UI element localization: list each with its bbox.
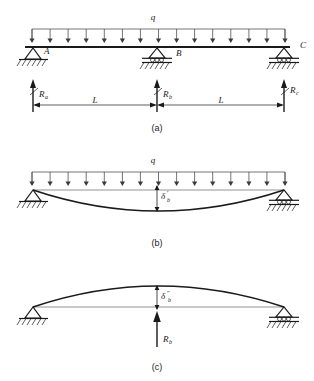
panel-c-force-Rb: R b	[153, 311, 172, 347]
load-arrow	[120, 172, 125, 186]
panel-a-dimension-right: L	[157, 95, 284, 108]
panel-c: δ ″ b R b	[17, 285, 299, 372]
panel-c-deflection-subscript: b	[168, 297, 171, 303]
panel-c-deflection-dimension: δ ″ b	[155, 285, 171, 310]
panel-b: q δ ′	[17, 155, 299, 248]
load-arrow	[264, 172, 269, 186]
panel-a-reaction-label-Ra: R	[38, 89, 45, 99]
beam-superposition-figure: q	[0, 0, 314, 381]
panel-a-node-label-B: B	[176, 48, 182, 58]
panel-a-reaction-sub-c: c	[296, 90, 299, 96]
figure-canvas: q	[0, 0, 314, 381]
panel-a-span-label-left: L	[91, 95, 97, 105]
load-arrow	[102, 172, 107, 186]
load-arrow	[120, 29, 125, 43]
load-arrow	[29, 172, 34, 186]
panel-a-caption: (a)	[152, 123, 163, 133]
panel-a-load-label: q	[151, 12, 156, 22]
load-arrow	[138, 172, 143, 186]
load-arrow	[174, 29, 179, 43]
panel-c-support-C	[267, 307, 299, 328]
panel-a-span-label-right: L	[217, 95, 223, 105]
panel-a-dimension-left: L	[33, 95, 157, 108]
load-arrow	[48, 29, 53, 43]
load-arrow	[66, 172, 71, 186]
panel-a-reaction-Rc: R c	[281, 79, 299, 112]
load-arrow	[102, 29, 107, 43]
panel-a-load-arrows	[29, 29, 287, 43]
panel-c-deflection-label: δ	[161, 291, 166, 301]
panel-a-node-label-C: C	[300, 40, 307, 50]
panel-b-caption: (b)	[152, 238, 163, 248]
load-arrow	[282, 29, 287, 43]
load-arrow	[228, 172, 233, 186]
load-arrow	[84, 29, 89, 43]
load-arrow	[210, 29, 215, 43]
load-arrow	[48, 172, 53, 186]
panel-c-force-label: R	[162, 334, 169, 344]
load-arrow	[156, 29, 161, 43]
load-arrow	[138, 29, 143, 43]
panel-a-support-C	[267, 48, 299, 69]
load-arrow	[84, 172, 89, 186]
panel-b-deflection-subscript: b	[167, 197, 170, 203]
panel-a-reaction-sub-b: b	[169, 94, 172, 100]
load-arrow	[210, 172, 215, 186]
panel-a-reaction-label-Rc: R	[289, 85, 296, 95]
panel-b-load-label: q	[151, 155, 156, 165]
load-arrow	[228, 29, 233, 43]
load-arrow	[66, 29, 71, 43]
load-arrow	[29, 29, 34, 43]
panel-a-reaction-label-Rb: R	[162, 89, 169, 99]
panel-c-deflection-prime: ″	[167, 289, 170, 297]
panel-b-deflection-dimension: δ ′ b	[155, 185, 170, 212]
panel-a-support-B	[140, 48, 172, 69]
load-arrow	[282, 172, 287, 186]
panel-a: q	[17, 12, 307, 133]
load-arrow	[192, 29, 197, 43]
load-arrow	[174, 172, 179, 186]
load-arrow	[246, 29, 251, 43]
load-arrow	[156, 172, 161, 186]
panel-c-force-subscript: b	[169, 339, 172, 345]
panel-b-load-arrows	[29, 172, 287, 186]
panel-c-caption: (c)	[152, 362, 163, 372]
load-arrow	[246, 172, 251, 186]
load-arrow	[192, 172, 197, 186]
panel-a-node-label-A: A	[43, 46, 50, 56]
load-arrow	[264, 29, 269, 43]
panel-a-reaction-sub-a: a	[45, 94, 48, 100]
panel-c-support-A	[17, 307, 48, 325]
panel-b-deflection-label: δ	[161, 191, 166, 201]
